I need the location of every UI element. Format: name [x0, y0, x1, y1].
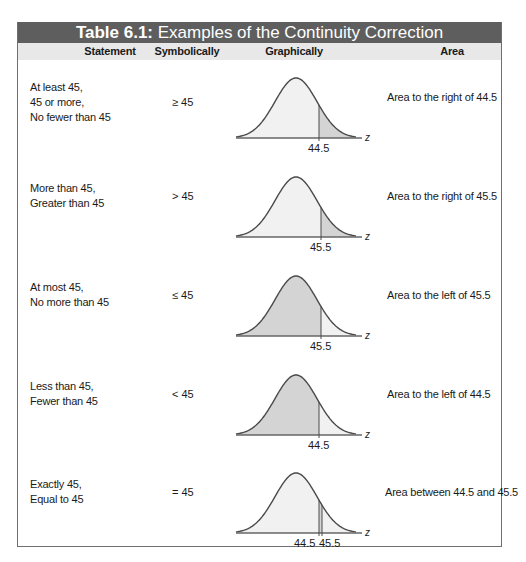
table-row: Less than 45,Fewer than 45< 45 z44.5Area…: [18, 357, 501, 454]
normal-curve-graph: z44.545.5: [218, 455, 378, 552]
normal-curve-icon: [218, 258, 378, 355]
cut-value-label: 45.5: [310, 241, 331, 253]
statement-line: Equal to 45: [30, 492, 83, 507]
symbol-cell: ≥ 45: [172, 95, 193, 110]
area-cell: Area to the right of 44.5: [387, 90, 497, 105]
statement-line: No more than 45: [30, 295, 109, 310]
statement-line: Greater than 45: [30, 196, 104, 211]
area-cell: Area to the left of 45.5: [387, 288, 490, 303]
cut-value-label: 45.5: [319, 537, 340, 549]
normal-curve-graph: z44.5: [218, 357, 378, 454]
cut-value-label: 44.5: [308, 439, 329, 451]
area-cell: Area to the left of 44.5: [387, 387, 490, 402]
statement-cell: More than 45,Greater than 45: [30, 181, 104, 211]
normal-curve-graph: z45.5: [218, 258, 378, 355]
normal-curve-graph: z45.5: [218, 159, 378, 256]
axis-label-z: z: [365, 132, 370, 144]
area-cell: Area to the right of 45.5: [387, 189, 497, 204]
column-header-symbolically: Symbolically: [155, 43, 220, 60]
normal-curve-icon: [218, 60, 378, 157]
symbol-cell: > 45: [172, 189, 194, 204]
column-header-statement: Statement: [84, 43, 135, 60]
axis-label-z: z: [365, 330, 370, 342]
table-row: At most 45,No more than 45≤ 45 z45.5Area…: [18, 258, 501, 355]
normal-curve-graph: z44.5: [218, 60, 378, 157]
statement-line: At most 45,: [30, 280, 109, 295]
cut-value-label: 44.5: [308, 142, 329, 154]
symbol-cell: ≤ 45: [172, 288, 193, 303]
statement-line: At least 45,: [30, 80, 111, 95]
statement-line: Less than 45,: [30, 379, 98, 394]
table-title-text: Examples of the Continuity Correction: [153, 23, 443, 42]
cut-value-label: 44.5: [294, 537, 315, 549]
column-header-row: Statement Symbolically Graphically Area: [18, 43, 501, 60]
cut-value-label: 45.5: [310, 340, 331, 352]
table-title: Table 6.1: Examples of the Continuity Co…: [18, 22, 501, 43]
table-title-prefix: Table 6.1:: [76, 23, 153, 42]
symbol-cell: < 45: [172, 387, 194, 402]
statement-line: Exactly 45,: [30, 477, 83, 492]
statement-cell: At most 45,No more than 45: [30, 280, 109, 310]
table-row: At least 45,45 or more,No fewer than 45≥…: [18, 60, 501, 157]
statement-line: No fewer than 45: [30, 110, 111, 125]
column-header-area: Area: [440, 43, 464, 60]
statement-cell: Less than 45,Fewer than 45: [30, 379, 98, 409]
statement-line: Fewer than 45: [30, 394, 98, 409]
statement-line: More than 45,: [30, 181, 104, 196]
statement-cell: Exactly 45,Equal to 45: [30, 477, 83, 507]
normal-curve-icon: [218, 357, 378, 454]
area-cell: Area between 44.5 and 45.5: [385, 485, 518, 500]
column-header-graphically: Graphically: [265, 43, 323, 60]
statement-cell: At least 45,45 or more,No fewer than 45: [30, 80, 111, 125]
normal-curve-icon: [218, 159, 378, 256]
table-row: Exactly 45,Equal to 45= 45 z44.545.5Area…: [18, 455, 501, 552]
axis-label-z: z: [365, 527, 370, 539]
statement-line: 45 or more,: [30, 95, 111, 110]
symbol-cell: = 45: [172, 485, 194, 500]
axis-label-z: z: [365, 231, 370, 243]
continuity-correction-table: Table 6.1: Examples of the Continuity Co…: [17, 22, 502, 547]
axis-label-z: z: [365, 429, 370, 441]
table-row: More than 45,Greater than 45> 45 z45.5Ar…: [18, 159, 501, 256]
